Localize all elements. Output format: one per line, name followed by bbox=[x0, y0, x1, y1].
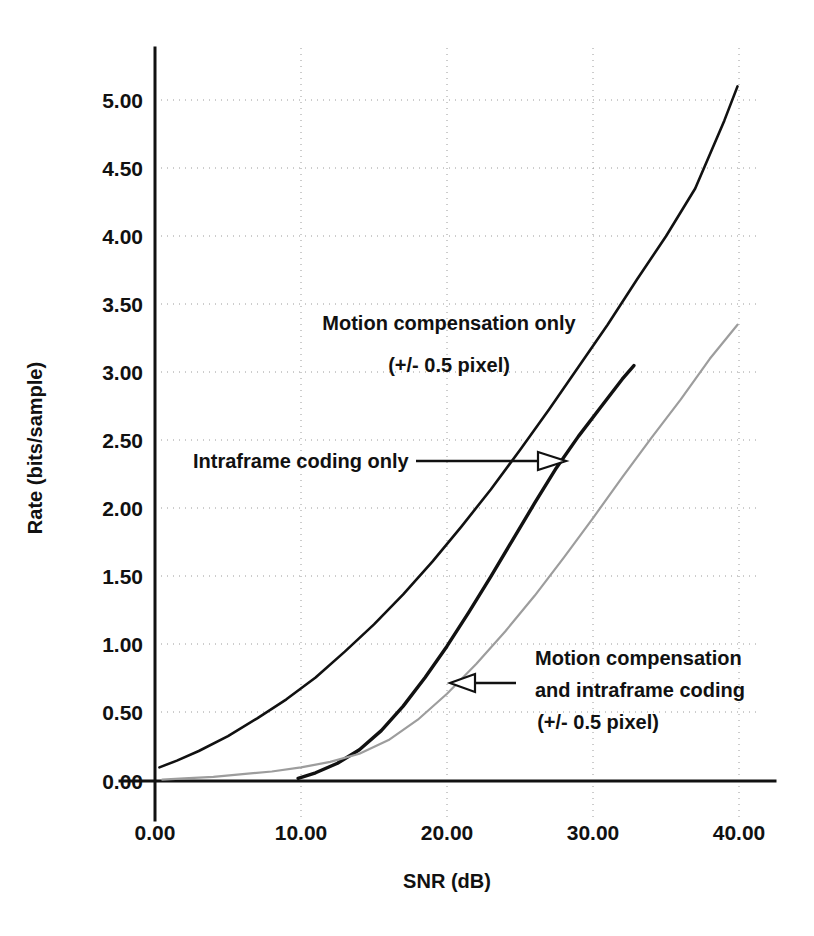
y-tick-3-50: 3.50 bbox=[102, 293, 143, 316]
y-tick-3-00: 3.00 bbox=[102, 361, 143, 384]
x-tick-labels: 0.00 10.00 20.00 30.00 40.00 bbox=[135, 821, 766, 844]
rate-snr-chart: 5.00 4.50 4.00 3.50 3.00 2.50 2.00 1.50 … bbox=[0, 0, 814, 936]
x-tick-10-00: 10.00 bbox=[275, 821, 328, 844]
annotation-motion-compensation-only: Motion compensation only (+/- 0.5 pixel) bbox=[322, 312, 576, 376]
horizontal-gridlines bbox=[155, 100, 760, 712]
annotation-motion-compensation-only-line1: Motion compensation only bbox=[322, 312, 576, 334]
y-tick-4-00: 4.00 bbox=[102, 225, 143, 248]
x-tick-20-00: 20.00 bbox=[421, 821, 474, 844]
y-tick-0-00: 0.00 bbox=[102, 770, 143, 793]
y-tick-labels: 5.00 4.50 4.00 3.50 3.00 2.50 2.00 1.50 … bbox=[102, 89, 143, 793]
x-tick-0-00: 0.00 bbox=[135, 821, 176, 844]
y-tick-2-00: 2.00 bbox=[102, 497, 143, 520]
vertical-gridlines bbox=[301, 48, 739, 820]
annotation-mc-intraframe-line2: and intraframe coding bbox=[535, 679, 745, 701]
y-tick-0-50: 0.50 bbox=[102, 701, 143, 724]
x-tick-30-00: 30.00 bbox=[567, 821, 620, 844]
y-axis-title: Rate (bits/sample) bbox=[24, 362, 46, 534]
y-tick-1-00: 1.00 bbox=[102, 633, 143, 656]
chart-figure: 5.00 4.50 4.00 3.50 3.00 2.50 2.00 1.50 … bbox=[0, 0, 814, 936]
annotation-motion-compensation-only-line2: (+/- 0.5 pixel) bbox=[388, 354, 510, 376]
x-tick-40-00: 40.00 bbox=[713, 821, 766, 844]
y-tick-4-50: 4.50 bbox=[102, 157, 143, 180]
annotation-intraframe-coding-only: Intraframe coding only bbox=[193, 450, 566, 472]
y-tick-1-50: 1.50 bbox=[102, 565, 143, 588]
x-axis-title: SNR (dB) bbox=[403, 870, 491, 892]
annotation-mc-intraframe-line1: Motion compensation bbox=[535, 647, 742, 669]
annotation-intraframe-coding-only-line1: Intraframe coding only bbox=[193, 450, 409, 472]
annotation-motion-compensation-and-intraframe: Motion compensation and intraframe codin… bbox=[450, 647, 745, 733]
annotation-mc-intraframe-line3: (+/- 0.5 pixel) bbox=[537, 711, 659, 733]
y-tick-2-50: 2.50 bbox=[102, 429, 143, 452]
y-tick-5-00: 5.00 bbox=[102, 89, 143, 112]
annotation-intraframe-arrowhead-right-icon bbox=[538, 452, 566, 470]
